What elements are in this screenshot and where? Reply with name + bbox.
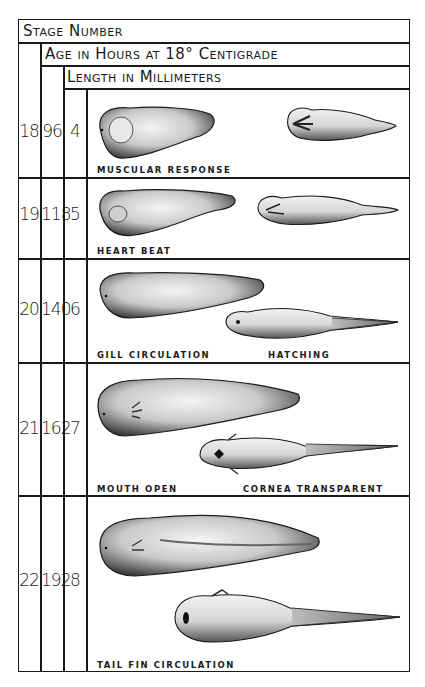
stage-21-lateral-tadpole [98, 379, 299, 436]
stage-18-lateral-embryo [100, 107, 214, 158]
stage-18-ventral-embryo [288, 108, 396, 140]
stage-22-ventral-tadpole [175, 590, 400, 642]
stage-21-ventral-tadpole [200, 434, 398, 474]
stage-19-ventral-embryo [258, 196, 398, 224]
stage-22-lateral-tadpole [100, 515, 319, 576]
stage-20-ventral-tadpole [226, 309, 398, 338]
stage-19-lateral-embryo [100, 190, 235, 236]
tadpole-illustrations [0, 0, 425, 687]
